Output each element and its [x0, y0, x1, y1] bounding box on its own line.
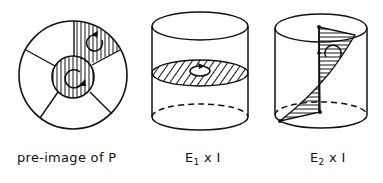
- spoke-lower-right: [90, 92, 112, 114]
- spoke-lower-left: [40, 92, 58, 118]
- e1-cylinder: [152, 12, 248, 130]
- caption-e2-times-i: E2 x I: [310, 150, 346, 167]
- caption-base: E: [310, 150, 319, 165]
- strip-vertex-corner: [278, 119, 282, 123]
- caption-rest: x I: [200, 150, 221, 165]
- e2-cylinder: [275, 14, 367, 128]
- caption-e1-times-i: E1 x I: [185, 150, 221, 167]
- caption-pre-image: pre-image of P: [17, 150, 116, 165]
- hatched-twisted-strip: [280, 27, 355, 121]
- cylinder-bottom-front: [152, 117, 248, 130]
- caption-base: E: [185, 150, 194, 165]
- cylinder-top: [152, 12, 248, 40]
- pre-image-disk: [19, 21, 127, 129]
- caption-rest: x I: [325, 150, 346, 165]
- cylinder-bottom-back: [152, 104, 248, 117]
- spoke-upper-left: [26, 50, 55, 66]
- center-disk: [52, 56, 94, 98]
- strip-vertex-top: [317, 25, 321, 29]
- strip-vertex-bottom: [318, 110, 322, 114]
